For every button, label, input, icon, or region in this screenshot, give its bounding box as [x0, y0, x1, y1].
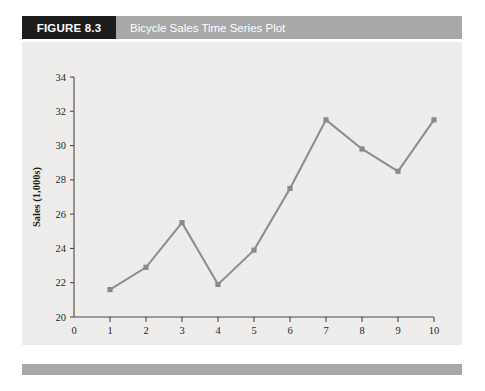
x-axis-tick-label: 7 — [323, 325, 328, 336]
y-axis-tick-label: 28 — [56, 174, 67, 185]
figure-header: FIGURE 8.3 Bicycle Sales Time Series Plo… — [22, 16, 462, 39]
y-axis-tick-label: 20 — [56, 312, 67, 323]
y-axis-tick-label: 34 — [56, 72, 67, 83]
data-point-marker — [395, 169, 400, 174]
x-axis-tick-label: 10 — [429, 325, 440, 336]
y-axis-tick-label: 24 — [56, 243, 67, 254]
data-point-marker — [179, 220, 184, 225]
figure-number-badge: FIGURE 8.3 — [22, 16, 116, 39]
y-axis-tick-label: 22 — [56, 277, 67, 288]
data-point-marker — [251, 248, 256, 253]
x-axis-tick-label: 5 — [251, 325, 256, 336]
figure-page: FIGURE 8.3 Bicycle Sales Time Series Plo… — [0, 0, 485, 391]
data-point-marker — [287, 186, 292, 191]
series-line-bicycle-sales — [110, 120, 434, 290]
chart-panel: 2022242628303234012345678910YearSales (1… — [22, 42, 462, 345]
data-point-marker — [431, 117, 436, 122]
x-axis-tick-label: 2 — [143, 325, 148, 336]
x-axis-title: Year — [244, 344, 265, 345]
y-axis-tick-label: 32 — [56, 106, 67, 117]
x-axis-tick-label: 0 — [71, 325, 76, 336]
x-axis-tick-label: 4 — [215, 325, 221, 336]
data-point-marker — [215, 282, 220, 287]
y-axis-tick-label: 26 — [56, 209, 67, 220]
data-point-marker — [323, 117, 328, 122]
x-axis-tick-label: 6 — [287, 325, 292, 336]
x-axis-tick-label: 8 — [359, 325, 364, 336]
figure-footer-bar — [22, 364, 462, 375]
x-axis-tick-label: 9 — [395, 325, 400, 336]
y-axis-title: Sales (1,000s) — [31, 166, 43, 227]
x-axis-tick-label: 3 — [179, 325, 184, 336]
data-point-marker — [143, 265, 148, 270]
data-point-marker — [107, 287, 112, 292]
y-axis-tick-label: 30 — [56, 140, 67, 151]
figure-title: Bicycle Sales Time Series Plot — [116, 16, 462, 39]
time-series-chart: 2022242628303234012345678910YearSales (1… — [22, 42, 462, 345]
x-axis-tick-label: 1 — [107, 325, 112, 336]
data-point-marker — [359, 146, 364, 151]
